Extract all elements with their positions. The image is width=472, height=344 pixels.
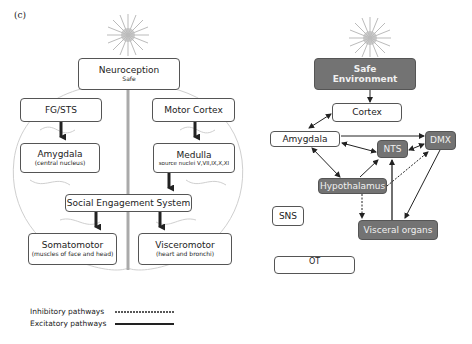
cortex-box: Cortex	[332, 103, 402, 122]
legend-inhibitory: Inhibitory pathways	[30, 307, 104, 316]
nts-label: NTS	[384, 144, 402, 154]
hypothalamus-label: Hypothalamus	[320, 181, 385, 191]
sns-box: SNS	[272, 206, 304, 226]
dmx-box: DMX	[425, 131, 456, 150]
visceromotor-box: Visceromotor (heart and bronchi)	[138, 233, 232, 265]
neuroception-box: Neuroception Safe	[78, 58, 180, 90]
legend-excitatory: Excitatory pathways	[30, 319, 106, 328]
sun-icon	[107, 14, 149, 56]
nts-box: NTS	[377, 140, 408, 158]
fg-sts-label: FG/STS	[45, 105, 77, 115]
safe-env-line2: Environment	[333, 74, 398, 84]
safe-env-line1: Safe	[354, 64, 377, 74]
sun-icon-right	[349, 17, 391, 57]
amygdala-sub: (central nucleus)	[35, 160, 86, 167]
panel-label: (c)	[14, 10, 26, 20]
amygdala-box-left: Amygdala (central nucleus)	[20, 143, 100, 173]
motor-cortex-label: Motor Cortex	[164, 105, 223, 115]
visceral-organs-box: Visceral organs	[358, 220, 438, 240]
dmx-label: DMX	[430, 135, 451, 145]
hypothalamus-box: Hypothalamus	[318, 178, 387, 194]
neuroception-sub: Safe	[122, 76, 135, 83]
ot-box: OT	[274, 256, 355, 274]
medulla-title: Medulla	[176, 150, 211, 160]
medulla-sub: source nuclei V,VII,IX,X,XI	[159, 160, 230, 166]
visceromotor-sub: (heart and bronchi)	[156, 251, 214, 258]
ses-label: Social Engagement System	[67, 198, 190, 208]
ses-box: Social Engagement System	[65, 194, 192, 212]
visceral-label: Visceral organs	[364, 225, 433, 235]
somatomotor-box: Somatomotor (muscles of face and head)	[28, 233, 117, 265]
amygdala-box-right: Amygdala	[270, 131, 340, 147]
sns-label: SNS	[279, 211, 297, 221]
amygdala-right-label: Amygdala	[282, 134, 327, 144]
somatomotor-sub: (muscles of face and head)	[32, 251, 114, 258]
medulla-box: Medulla source nuclei V,VII,IX,X,XI	[153, 143, 235, 173]
ot-label: OT	[309, 257, 320, 266]
fg-sts-box: FG/STS	[20, 98, 102, 122]
safe-environment-box: Safe Environment	[314, 58, 416, 90]
motor-cortex-box: Motor Cortex	[152, 98, 235, 122]
cortex-label: Cortex	[352, 107, 382, 117]
